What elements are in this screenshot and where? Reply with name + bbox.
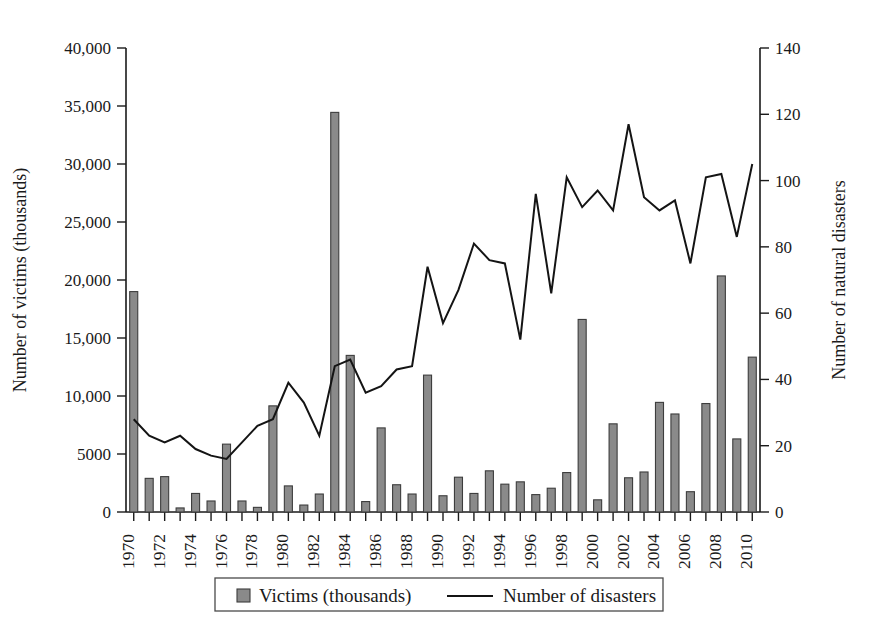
right-axis-tick-label: 80 — [775, 238, 792, 257]
left-axis-tick-label: 5000 — [77, 445, 111, 464]
bar — [578, 319, 586, 512]
x-axis-tick-label: 1980 — [272, 534, 292, 569]
x-axis-tick-label: 1990 — [427, 534, 447, 569]
x-axis-tick-label: 1972 — [149, 534, 169, 569]
x-axis-tick-label: 1988 — [396, 534, 416, 569]
dual-axis-bar-line-chart: 0500010,00015,00020,00025,00030,00035,00… — [0, 0, 870, 638]
x-axis-tick-label: 1998 — [551, 534, 571, 569]
x-axis-tick-label: 2006 — [674, 534, 694, 569]
bar — [192, 493, 200, 512]
right-axis-tick-label: 140 — [775, 39, 801, 58]
left-axis-tick-label: 20,000 — [64, 271, 111, 290]
bar — [640, 472, 648, 512]
x-axis-tick-label: 1996 — [520, 534, 540, 569]
x-axis-tick-label: 2008 — [705, 534, 725, 569]
left-axis-tick-label: 35,000 — [64, 97, 111, 116]
bar — [501, 484, 509, 512]
left-axis-tick-label: 10,000 — [64, 387, 111, 406]
right-axis: 020406080100120140 — [760, 39, 801, 522]
bar — [516, 482, 524, 512]
bar — [454, 477, 462, 512]
bar — [145, 478, 153, 512]
left-axis-tick-label: 15,000 — [64, 329, 111, 348]
bar — [485, 471, 493, 512]
x-axis-tick-label: 2000 — [582, 534, 602, 569]
x-axis-tick-label: 1982 — [303, 534, 323, 569]
plot-area: 0500010,00015,00020,00025,00030,00035,00… — [64, 39, 800, 569]
bar — [161, 477, 169, 512]
bar — [269, 406, 277, 512]
bar — [130, 292, 138, 512]
right-axis-tick-label: 20 — [775, 437, 792, 456]
right-axis-tick-label: 100 — [775, 172, 801, 191]
right-axis-tick-label: 120 — [775, 105, 801, 124]
bar — [253, 507, 261, 512]
x-axis-tick-label: 1974 — [180, 534, 200, 569]
bar — [284, 486, 292, 512]
bar — [702, 404, 710, 512]
left-axis-tick-label: 0 — [103, 503, 112, 522]
legend-label-disasters: Number of disasters — [503, 585, 656, 606]
right-axis-tick-label: 0 — [775, 503, 784, 522]
bar — [176, 508, 184, 512]
legend-swatch-victims[interactable] — [237, 589, 250, 602]
chart-figure: 0500010,00015,00020,00025,00030,00035,00… — [0, 0, 870, 638]
bar — [439, 496, 447, 512]
bar — [748, 357, 756, 512]
x-axis-tick-label: 1994 — [489, 534, 509, 569]
left-axis: 0500010,00015,00020,00025,00030,00035,00… — [64, 39, 126, 522]
bar — [346, 355, 354, 512]
x-axis-tick-label: 2002 — [613, 534, 633, 569]
bar — [594, 500, 602, 512]
bar — [655, 402, 663, 512]
bar — [686, 492, 694, 512]
y2-axis-title: Number of natural disasters — [829, 180, 849, 379]
x-axis-tick-label: 1992 — [458, 534, 478, 569]
bar — [238, 501, 246, 512]
x-axis-tick-label: 1986 — [365, 534, 385, 569]
legend-label-victims: Victims (thousands) — [259, 585, 411, 607]
right-axis-tick-label: 40 — [775, 370, 792, 389]
bar — [717, 276, 725, 512]
x-axis-tick-label: 1970 — [118, 534, 138, 569]
bar — [547, 488, 555, 512]
chart-legend: Victims (thousands)Number of disasters — [215, 578, 663, 611]
bar-series-victims — [130, 112, 757, 512]
bar — [331, 112, 339, 512]
left-axis-tick-label: 40,000 — [64, 39, 111, 58]
x-axis-tick-label: 1976 — [211, 534, 231, 569]
bar — [362, 502, 370, 512]
bar — [424, 375, 432, 512]
bar — [408, 494, 416, 512]
x-axis-tick-label: 1984 — [334, 534, 354, 569]
x-axis: 1970197219741976197819801982198419861988… — [118, 512, 760, 569]
bar — [393, 485, 401, 512]
bar — [315, 494, 323, 512]
bar — [625, 478, 633, 512]
bar — [733, 439, 741, 512]
x-axis-tick-label: 2010 — [736, 534, 756, 569]
bar — [563, 473, 571, 512]
bar — [470, 493, 478, 512]
bar — [222, 444, 230, 512]
bar — [377, 428, 385, 512]
right-axis-tick-label: 60 — [775, 304, 792, 323]
bar — [207, 501, 215, 512]
y-axis-title: Number of victims (thousands) — [10, 168, 31, 392]
x-axis-tick-label: 2004 — [643, 534, 663, 569]
bar — [300, 505, 308, 512]
left-axis-tick-label: 30,000 — [64, 155, 111, 174]
left-axis-tick-label: 25,000 — [64, 213, 111, 232]
bar — [609, 424, 617, 512]
x-axis-tick-label: 1978 — [241, 534, 261, 569]
bar — [671, 414, 679, 512]
bar — [532, 495, 540, 512]
